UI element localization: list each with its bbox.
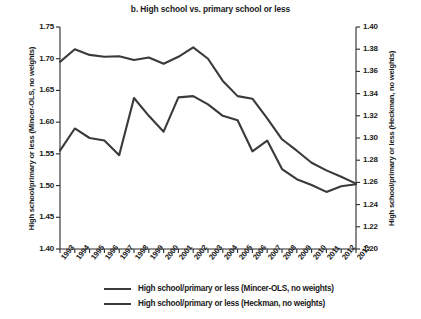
tick-marks-right — [356, 27, 360, 249]
y-tick-label-right: 1.22 — [363, 222, 397, 231]
y-tick-label-right: 1.28 — [363, 155, 397, 164]
tick-marks-bottom — [60, 249, 356, 253]
series-line-heckman — [60, 96, 356, 192]
y-tick-label-left: 1.75 — [20, 22, 54, 31]
legend-swatch-mincer-ols — [104, 288, 131, 290]
legend-label-heckman: High school/primary or less (Heckman, no… — [138, 299, 325, 308]
y-tick-label-right: 1.26 — [363, 177, 397, 186]
y-tick-label-right: 1.24 — [363, 200, 397, 209]
chart-figure: b. High school vs. primary school or les… — [0, 0, 421, 319]
y-tick-label-right: 1.30 — [363, 133, 397, 142]
series-line-mincer-ols — [60, 47, 356, 183]
y-tick-label-right: 1.36 — [363, 66, 397, 75]
chart-title: b. High school vs. primary school or les… — [0, 4, 421, 14]
legend-swatch-heckman — [104, 303, 131, 305]
legend-item-mincer-ols: High school/primary or less (Mincer-OLS,… — [0, 281, 421, 296]
y-tick-label-left: 1.70 — [20, 54, 54, 63]
y-tick-label-left: 1.50 — [20, 181, 54, 190]
tick-marks-left — [56, 27, 60, 249]
y-tick-label-right: 1.40 — [363, 22, 397, 31]
plot-svg — [60, 27, 356, 249]
y-tick-label-right: 1.38 — [363, 44, 397, 53]
plot-area — [60, 27, 356, 249]
y-tick-label-right: 1.32 — [363, 111, 397, 120]
legend-label-mincer-ols: High school/primary or less (Mincer-OLS,… — [138, 284, 334, 293]
y-tick-label-left: 1.40 — [20, 244, 54, 253]
legend-item-heckman: High school/primary or less (Heckman, no… — [0, 296, 421, 311]
y-tick-label-right: 1.34 — [363, 89, 397, 98]
y-tick-label-left: 1.55 — [20, 149, 54, 158]
chart-legend: High school/primary or less (Mincer-OLS,… — [0, 281, 421, 311]
y-tick-label-left: 1.45 — [20, 212, 54, 221]
y-tick-label-left: 1.65 — [20, 85, 54, 94]
y-tick-label-left: 1.60 — [20, 117, 54, 126]
